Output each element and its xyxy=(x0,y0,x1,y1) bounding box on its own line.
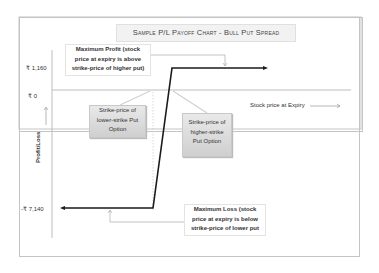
higher-strike-annotation: Strike-price of higher-strike Put Option xyxy=(182,113,232,157)
chart-title: Sample P/L Payoff Chart - Bull Put Sprea… xyxy=(116,24,296,42)
max-profit-annotation: Maximum Profit (stock price at expiry is… xyxy=(65,44,151,76)
y-label-zero: ₹ 0 xyxy=(28,92,37,99)
x-axis-title: Stock price at Expiry xyxy=(250,102,305,108)
y-label-min: -₹ 7,140 xyxy=(21,205,44,212)
max-loss-annotation: Maximum Loss (stock price at expiry is b… xyxy=(184,204,266,236)
y-axis-title: Profit/Loss xyxy=(35,132,41,163)
y-label-max: ₹ 1,160 xyxy=(26,64,47,71)
lower-strike-annotation: Strike-price of lower-strike Put Option xyxy=(89,105,146,138)
